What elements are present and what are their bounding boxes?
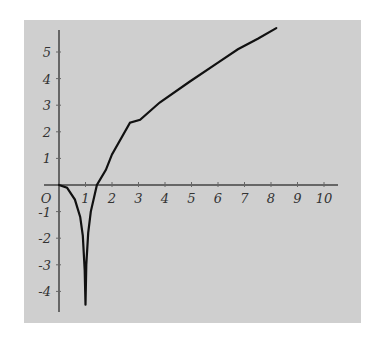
- y-tick-label: 3: [43, 98, 51, 113]
- chart-svg: O12345678910 54321-1-2-3-4: [0, 0, 378, 339]
- y-tick-label: -2: [38, 231, 51, 246]
- x-tick-label: 7: [240, 191, 249, 206]
- y-tick-label: 2: [42, 125, 51, 140]
- x-tick-label: 5: [187, 191, 195, 206]
- y-tick-label: 5: [43, 45, 51, 60]
- x-tick-label: 2: [107, 191, 116, 206]
- function-curve: [59, 28, 276, 305]
- y-ticks: 54321-1-2-3-4: [38, 45, 61, 299]
- x-tick-label: 9: [293, 191, 301, 206]
- y-tick-label: -4: [38, 284, 51, 299]
- y-tick-label: 1: [43, 151, 51, 166]
- y-tick-label: -3: [38, 258, 51, 273]
- x-tick-label: 6: [214, 191, 222, 206]
- x-tick-label: 1: [81, 191, 89, 206]
- y-tick-label: 4: [42, 72, 51, 87]
- x-tick-label: 8: [267, 191, 275, 206]
- y-tick-label: -1: [38, 205, 51, 220]
- x-tick-label: 4: [160, 191, 169, 206]
- axes: [44, 30, 338, 312]
- x-tick-label: 10: [316, 191, 333, 206]
- x-tick-label: 3: [134, 191, 142, 206]
